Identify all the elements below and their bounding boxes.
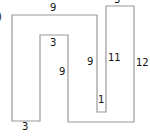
label-slot-bottom: 1 [98,95,104,105]
composite-shape-outline [0,0,150,136]
label-right-top: 3 [114,0,120,5]
label-slot-right: 11 [108,53,121,63]
partial-label-marker: ) [0,12,2,22]
composite-shape-figure: ) 9 3 9 9 11 12 1 3 3 [0,0,150,136]
label-inner-right: 9 [59,67,65,77]
label-inner-top: 3 [50,38,56,48]
label-left-leg-bottom: 3 [22,122,28,132]
label-right-outer: 12 [136,58,149,68]
label-top-outer: 9 [50,3,56,13]
shape-polygon [12,6,134,122]
label-slot-left: 9 [87,57,93,67]
